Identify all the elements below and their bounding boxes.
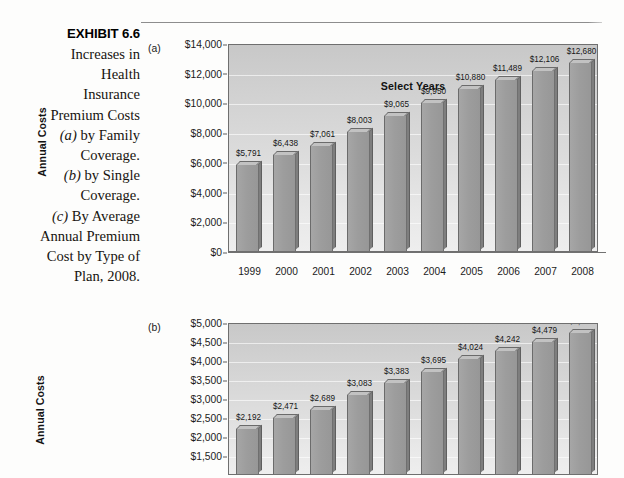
bar-value-label: $12,106 [525, 55, 564, 64]
y-axis-tick-label: $2,000 [191, 432, 223, 443]
bar-value-label: $2,192 [229, 413, 268, 422]
bar [569, 44, 590, 251]
bar-front-face [347, 395, 370, 474]
x-axis-tick-label: 2006 [497, 266, 520, 277]
bar [532, 44, 553, 251]
y-axis-tick-label: $3,000 [191, 394, 223, 405]
x-axis-tick-label: 2002 [349, 266, 372, 277]
bar-series-a: $5,791$6,438$7,061$8,003$9,065$9,950$10,… [229, 45, 597, 251]
bar [384, 44, 405, 251]
panel-letter-a: (a) [148, 43, 161, 54]
bar-series-b: $2,192$2,471$2,689$3,083$3,383$3,695$4,0… [229, 324, 597, 474]
x-axis-title-a: Select Years [228, 80, 598, 92]
bar-front-face [384, 116, 407, 251]
bar-top-face [236, 161, 261, 165]
y-axis-tick-label: $4,000 [191, 187, 223, 198]
panel-letter-b: (b) [148, 322, 161, 333]
x-axis-ticks-a: 1999200020012002200320042005200620072008 [228, 252, 606, 262]
bar-front-face [495, 351, 518, 474]
y-axis-ticks-b: $5,000$4,500$4,000$3,500$3,000$2,500$2,0… [160, 323, 222, 475]
bar-front-face [495, 80, 518, 251]
bar-value-label: $8,003 [340, 116, 379, 125]
bar-top-face [310, 406, 335, 410]
bar [495, 323, 516, 474]
bar-top-face [310, 142, 335, 146]
y-axis-ticks-a: $14,000$12,000$10,000$8,000$6,000$4,000$… [160, 44, 222, 252]
y-axis-tick-label: $8,000 [191, 128, 223, 139]
bar-front-face [273, 418, 296, 474]
bar-value-label: $3,083 [340, 379, 379, 388]
bar [236, 44, 257, 251]
bar-front-face [421, 103, 444, 251]
bar-front-face [273, 155, 296, 251]
bar [236, 323, 257, 474]
bar [495, 44, 516, 251]
bar-top-face [569, 59, 594, 63]
y-axis-tick-label: $6,000 [191, 157, 223, 168]
bar-top-face [495, 347, 520, 351]
bar-value-label: $7,061 [303, 130, 342, 139]
x-axis-tick-label: 2008 [571, 266, 594, 277]
y-axis-tick-label: $10,000 [185, 98, 222, 109]
y-axis-tick-label: $4,500 [191, 337, 223, 348]
bar-front-face [310, 146, 333, 251]
bar [347, 323, 368, 474]
x-axis-tick-label: 2001 [312, 266, 335, 277]
y-axis-tick-label: $14,000 [185, 39, 222, 50]
y-axis-tick-label: $12,000 [185, 68, 222, 79]
bar [421, 44, 442, 251]
bar-value-label: $4,479 [525, 326, 564, 335]
bar-front-face [421, 372, 444, 474]
bar-top-face [347, 391, 372, 395]
bar-value-label: $9,065 [377, 100, 416, 109]
bar-top-face [236, 425, 261, 429]
bar-value-label: $3,383 [377, 367, 416, 376]
bar-front-face [532, 71, 555, 251]
bar-front-face [532, 342, 555, 474]
bar-front-face [310, 410, 333, 474]
x-axis-tick-label: 2004 [423, 266, 446, 277]
y-axis-title-b: Annual Costs [34, 350, 46, 470]
y-axis-tick-label: $3,500 [191, 375, 223, 386]
bar-value-label: $4,242 [488, 335, 527, 344]
bar-top-face [458, 355, 483, 359]
bar-value-label: $2,471 [266, 402, 305, 411]
bar-front-face [384, 383, 407, 474]
bar-value-label: $3,695 [414, 356, 453, 365]
y-axis-tick-label: $4,000 [191, 356, 223, 367]
y-axis-tick-label: $1,500 [191, 451, 223, 462]
bar [273, 323, 294, 474]
y-axis-tick-label: $2,000 [191, 217, 223, 228]
bar-front-face [236, 429, 259, 474]
bar-front-face [458, 359, 481, 474]
bar [384, 323, 405, 474]
bar-front-face [236, 165, 259, 251]
bar-value-label: $4,704 [562, 323, 598, 326]
x-axis-tick-label: 2003 [386, 266, 409, 277]
y-axis-tick-label: $0 [211, 247, 222, 258]
bar-value-label: $11,489 [488, 64, 527, 73]
bar-value-label: $12,680 [562, 47, 598, 56]
header-rule [141, 22, 602, 23]
bar [421, 323, 442, 474]
bar-front-face [569, 333, 592, 474]
bar-top-face [421, 368, 446, 372]
chart-family-coverage: (a) Annual Costs $14,000$12,000$10,000$8… [0, 36, 624, 306]
y-axis-title-a: Annual Costs [36, 82, 48, 202]
bar-top-face [532, 338, 557, 342]
x-axis-tick-label: 2000 [275, 266, 298, 277]
bar-front-face [347, 132, 370, 251]
chart-single-coverage: (b) Annual Costs $5,000$4,500$4,000$3,50… [0, 318, 624, 478]
x-axis-tick-label: 2007 [534, 266, 557, 277]
bar-value-label: $5,791 [229, 149, 268, 158]
bar-value-label: $6,438 [266, 139, 305, 148]
bar [569, 323, 590, 474]
x-axis-tick-label: 1999 [238, 266, 261, 277]
bar-value-label: $4,024 [451, 343, 490, 352]
plot-area-b: $2,192$2,471$2,689$3,083$3,383$3,695$4,0… [228, 323, 598, 475]
bar [532, 323, 553, 474]
bar [310, 44, 331, 251]
bar-value-label: $2,689 [303, 394, 342, 403]
bar-front-face [458, 89, 481, 251]
